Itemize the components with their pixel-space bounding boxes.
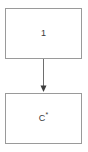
diagram-canvas: 1 C* [0, 0, 88, 152]
node-bottom-label: C* [39, 114, 49, 123]
node-top-label: 1 [41, 29, 46, 38]
node-bottom[interactable]: C* [5, 93, 82, 144]
node-top[interactable]: 1 [5, 8, 82, 59]
arrowhead-down-icon [41, 86, 47, 93]
node-bottom-label-superscript: * [45, 111, 48, 118]
edge-top-to-bottom [41, 59, 47, 92]
